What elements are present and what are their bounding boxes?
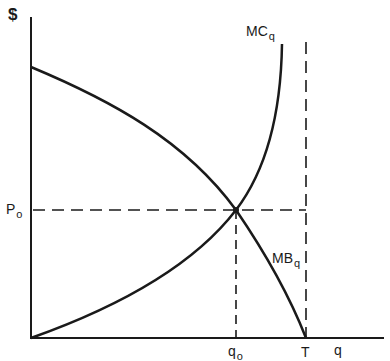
diagram-canvas: $ MCq MBq Po qo T q bbox=[0, 0, 390, 361]
diagram-svg bbox=[0, 0, 390, 361]
mb-label-sub: q bbox=[294, 257, 300, 269]
mb-curve bbox=[31, 67, 306, 338]
mb-curve-label: MBq bbox=[272, 251, 300, 269]
mc-label-main: MC bbox=[246, 23, 268, 39]
mc-curve-label: MCq bbox=[246, 24, 275, 42]
threshold-label: T bbox=[301, 345, 310, 359]
mc-curve bbox=[31, 44, 282, 338]
mc-label-sub: q bbox=[269, 30, 275, 42]
price-label-sub: o bbox=[16, 208, 22, 220]
mb-label-main: MB bbox=[272, 250, 293, 266]
y-axis-label: $ bbox=[8, 6, 17, 23]
quantity-label-main: q bbox=[228, 343, 236, 359]
quantity-label: qo bbox=[228, 344, 243, 361]
price-label: Po bbox=[6, 202, 22, 220]
quantity-label-sub: o bbox=[237, 350, 243, 361]
price-label-main: P bbox=[6, 201, 15, 217]
equilibrium-point bbox=[233, 207, 239, 213]
x-axis-label: q bbox=[334, 343, 342, 357]
